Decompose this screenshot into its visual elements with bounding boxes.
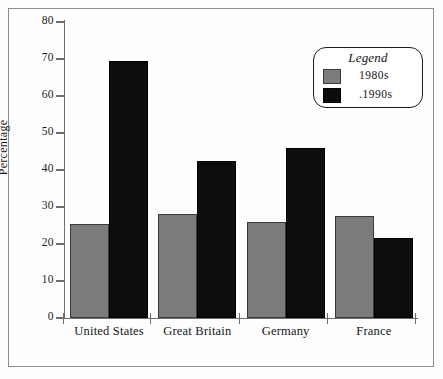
- y-axis-title: Percentage: [0, 120, 11, 176]
- x-axis-category-label: France: [322, 324, 426, 339]
- y-tick-label-wrap: 40: [12, 162, 54, 176]
- legend-entry: .1990s: [323, 87, 417, 104]
- y-tick-mark: [56, 169, 65, 170]
- y-tick-label-wrap: 60: [12, 88, 54, 102]
- y-tick-label: 80: [18, 14, 54, 26]
- y-tick-mark: [56, 95, 65, 96]
- y-tick-label: 60: [18, 88, 54, 100]
- y-tick-label: 40: [18, 162, 54, 174]
- bar: [374, 238, 413, 318]
- y-tick-mark: [56, 132, 65, 133]
- y-tick-label-wrap: 70: [12, 51, 54, 65]
- x-group-tick: [415, 313, 416, 324]
- legend-label: 1980s: [359, 69, 389, 81]
- y-tick-mark: [56, 58, 65, 59]
- legend-box: Legend 1980s.1990s: [313, 47, 423, 108]
- bar: [197, 161, 236, 318]
- bar: [109, 61, 148, 318]
- y-tick-label-wrap: 10: [12, 273, 54, 287]
- y-tick-label: 0: [18, 310, 54, 322]
- y-tick-label-wrap: 80: [12, 14, 54, 28]
- x-group-tick: [150, 313, 151, 324]
- legend-swatch: [323, 69, 341, 84]
- y-tick-mark: [56, 243, 65, 244]
- x-group-tick: [63, 313, 64, 324]
- x-group-tick: [327, 313, 328, 324]
- y-tick-label: 10: [18, 273, 54, 285]
- bar: [247, 222, 286, 318]
- legend-title: Legend: [314, 50, 422, 66]
- y-tick-mark: [56, 206, 65, 207]
- bar: [70, 224, 109, 318]
- x-group-tick: [239, 313, 240, 324]
- y-tick-label-wrap: 30: [12, 199, 54, 213]
- y-tick-label: 70: [18, 51, 54, 63]
- legend-swatch: [323, 88, 341, 103]
- legend-entry: 1980s: [323, 68, 417, 85]
- y-tick-mark: [56, 21, 65, 22]
- bar: [158, 214, 197, 318]
- x-axis-line: [56, 318, 418, 319]
- y-tick-mark: [56, 280, 65, 281]
- y-tick-label: 30: [18, 199, 54, 211]
- y-tick-label-wrap: 0: [12, 310, 54, 324]
- y-tick-label: 50: [18, 125, 54, 137]
- legend-label: .1990s: [359, 88, 392, 100]
- bar: [335, 216, 374, 318]
- bar: [286, 148, 325, 318]
- y-tick-label: 20: [18, 236, 54, 248]
- y-tick-label-wrap: 50: [12, 125, 54, 139]
- y-tick-label-wrap: 20: [12, 236, 54, 250]
- chart-screenshot: Percentage 01020304050607080 United Stat…: [0, 0, 443, 379]
